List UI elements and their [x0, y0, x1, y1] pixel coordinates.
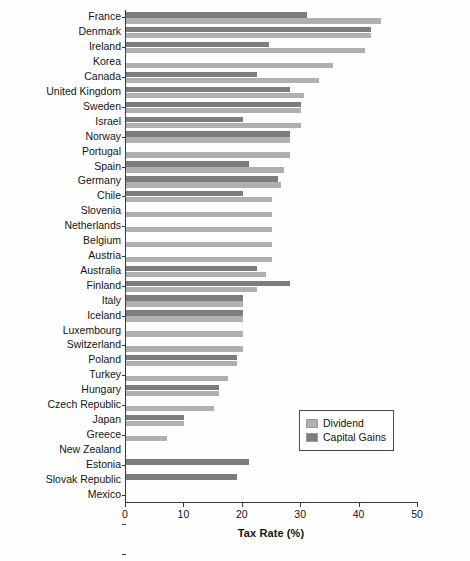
bar-capital-gains — [126, 72, 257, 77]
bar-group — [126, 204, 418, 220]
bar-capital-gains — [126, 161, 249, 166]
y-axis-label-iceland: Iceland — [0, 310, 121, 321]
bar-group — [126, 293, 418, 309]
y-axis-label-finland: Finland — [0, 280, 121, 291]
y-axis-label-estonia: Estonia — [0, 459, 121, 470]
bar-capital-gains — [126, 310, 243, 315]
bar-group — [126, 487, 418, 503]
bar-dividend — [126, 108, 301, 113]
bar-dividend — [126, 63, 333, 68]
bar-dividend — [126, 316, 243, 321]
y-axis-tick — [122, 524, 126, 525]
bar-capital-gains — [126, 295, 243, 300]
bar-dividend — [126, 272, 266, 277]
legend-swatch-dividend — [306, 419, 318, 428]
bar-dividend — [126, 152, 290, 157]
bar-group — [126, 308, 418, 324]
bar-group — [126, 174, 418, 190]
y-axis-label-luxembourg: Luxembourg — [0, 325, 121, 336]
bar-dividend — [126, 78, 319, 83]
tax-rate-bar-chart: FranceDenmarkIrelandKoreaCanadaUnited Ki… — [0, 0, 470, 561]
y-axis-label-slovenia: Slovenia — [0, 205, 121, 216]
bar-dividend — [126, 301, 243, 306]
x-axis-tick — [242, 502, 243, 507]
bar-group — [126, 249, 418, 265]
bar-capital-gains — [126, 176, 278, 181]
y-axis-label-united-kingdom: United Kingdom — [0, 86, 121, 97]
bar-group — [126, 144, 418, 160]
y-axis-label-portugal: Portugal — [0, 146, 121, 157]
bar-capital-gains — [126, 385, 219, 390]
bar-group — [126, 219, 418, 235]
bar-group — [126, 263, 418, 279]
legend-item-capital-gains: Capital Gains — [306, 431, 386, 444]
y-axis-label-germany: Germany — [0, 175, 121, 186]
x-axis-tick-label: 20 — [236, 508, 248, 520]
bar-group — [126, 55, 418, 71]
bar-dividend — [126, 421, 184, 426]
chart-legend: Dividend Capital Gains — [299, 410, 394, 451]
y-axis-tick — [122, 17, 126, 18]
bar-dividend — [126, 361, 237, 366]
bar-capital-gains — [126, 12, 307, 17]
bar-capital-gains — [126, 102, 301, 107]
bar-group — [126, 10, 418, 26]
legend-item-dividend: Dividend — [306, 417, 386, 430]
bar-group — [126, 85, 418, 101]
legend-label-dividend: Dividend — [323, 418, 364, 429]
bar-group — [126, 159, 418, 175]
bar-dividend — [126, 182, 281, 187]
y-axis-label-greece: Greece — [0, 429, 121, 440]
bar-group — [126, 25, 418, 41]
bar-group — [126, 472, 418, 488]
legend-label-capital-gains: Capital Gains — [323, 432, 386, 443]
bar-group — [126, 383, 418, 399]
bar-dividend — [126, 93, 304, 98]
bar-dividend — [126, 287, 257, 292]
y-axis-label-denmark: Denmark — [0, 26, 121, 37]
bar-dividend — [126, 376, 228, 381]
x-axis-tick-label: 40 — [353, 508, 365, 520]
bar-dividend — [126, 406, 214, 411]
y-axis-label-czech-republic: Czech Republic — [0, 399, 121, 410]
x-axis-tick-label: 30 — [294, 508, 306, 520]
x-axis-title: Tax Rate (%) — [125, 527, 417, 539]
y-axis-label-turkey: Turkey — [0, 369, 121, 380]
y-axis-label-spain: Spain — [0, 161, 121, 172]
y-axis-label-netherlands: Netherlands — [0, 220, 121, 231]
bar-capital-gains — [126, 87, 290, 92]
bar-group — [126, 99, 418, 115]
bar-dividend — [126, 391, 219, 396]
y-axis-label-hungary: Hungary — [0, 384, 121, 395]
x-axis-tick-labels: 01020304050 — [0, 508, 470, 522]
x-axis-tick — [183, 502, 184, 507]
x-axis-tick-label: 0 — [122, 508, 128, 520]
y-axis-category-labels: FranceDenmarkIrelandKoreaCanadaUnited Ki… — [0, 10, 121, 502]
y-axis-tick — [122, 554, 126, 555]
bar-capital-gains — [126, 355, 237, 360]
bar-dividend — [126, 227, 272, 232]
bar-group — [126, 40, 418, 56]
x-axis-tick — [359, 502, 360, 507]
y-axis-label-ireland: Ireland — [0, 41, 121, 52]
bar-capital-gains — [126, 474, 237, 479]
x-axis-tick-label: 50 — [411, 508, 423, 520]
y-axis-label-sweden: Sweden — [0, 101, 121, 112]
y-axis-label-slovak-republic: Slovak Republic — [0, 474, 121, 485]
bar-group — [126, 338, 418, 354]
y-axis-label-switzerland: Switzerland — [0, 339, 121, 350]
bar-group — [126, 70, 418, 86]
bar-capital-gains — [126, 191, 243, 196]
bar-capital-gains — [126, 459, 249, 464]
bar-capital-gains — [126, 42, 269, 47]
bar-dividend — [126, 197, 272, 202]
bar-group — [126, 353, 418, 369]
bar-group — [126, 234, 418, 250]
bar-group — [126, 129, 418, 145]
bar-group — [126, 323, 418, 339]
y-axis-label-france: France — [0, 11, 121, 22]
y-axis-label-italy: Italy — [0, 295, 121, 306]
y-axis-label-poland: Poland — [0, 354, 121, 365]
bar-dividend — [126, 33, 371, 38]
y-axis-label-austria: Austria — [0, 250, 121, 261]
